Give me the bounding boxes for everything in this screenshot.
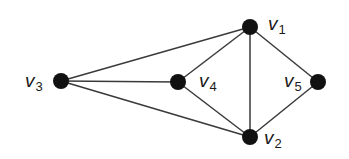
label-subscript: 1: [279, 22, 286, 37]
label-v2: v2: [264, 128, 282, 150]
node-v2: [242, 129, 258, 145]
node-v3: [53, 73, 69, 89]
label-letter: v: [268, 13, 278, 34]
label-v3: v3: [25, 71, 43, 93]
label-subscript: 2: [275, 136, 282, 151]
node-v1: [242, 19, 258, 35]
label-v4: v4: [199, 71, 217, 93]
label-v5: v5: [284, 71, 302, 93]
edges-layer: [61, 27, 318, 137]
node-v5: [310, 74, 326, 90]
label-subscript: 3: [36, 79, 43, 94]
label-letter: v: [25, 70, 35, 91]
edge-v1-v3: [61, 27, 250, 81]
node-v4: [170, 74, 186, 90]
label-letter: v: [264, 127, 274, 148]
label-letter: v: [284, 70, 294, 91]
label-subscript: 4: [210, 79, 217, 94]
label-v1: v1: [268, 14, 286, 36]
edge-v3-v4: [61, 81, 178, 82]
edge-v2-v3: [61, 81, 250, 137]
label-letter: v: [199, 70, 209, 91]
label-subscript: 5: [295, 79, 302, 94]
